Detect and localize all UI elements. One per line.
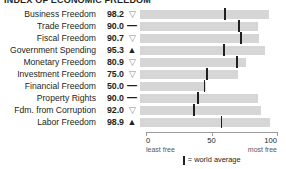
trend-down-icon: ▽ xyxy=(124,8,140,20)
chart-row: Financial Freedom50.0— xyxy=(0,80,286,92)
bar-track xyxy=(140,20,271,32)
world-average-tick xyxy=(193,104,195,116)
row-value: 98.2 xyxy=(96,8,124,20)
chart-row: Business Freedom98.2▽ xyxy=(0,8,286,20)
trend-down-icon: ▽ xyxy=(124,68,140,80)
world-average-tick xyxy=(204,80,206,92)
chart-title-text: INDEX OF ECONOMIC FREEDOM xyxy=(4,0,274,5)
row-label: Trade Freedom xyxy=(0,20,96,32)
chart-row: Fdm. from Corruption92.0▽ xyxy=(0,104,286,116)
value-bar xyxy=(140,10,269,19)
row-label: Investment Freedom xyxy=(0,68,96,80)
axis-sublabel: most free xyxy=(248,145,277,154)
row-value: 90.0 xyxy=(96,20,124,32)
chart-rows: Business Freedom98.2▽Trade Freedom90.0—F… xyxy=(0,8,286,128)
world-average-tick xyxy=(206,68,208,80)
row-value: 90.0 xyxy=(96,92,124,104)
chart-title: INDEX OF ECONOMIC FREEDOM xyxy=(4,0,274,5)
row-label: Fiscal Freedom xyxy=(0,32,96,44)
value-bar xyxy=(140,22,258,31)
value-bar xyxy=(140,82,206,91)
world-average-tick xyxy=(223,44,225,56)
chart-row: Government Spending95.3▲ xyxy=(0,44,286,56)
value-bar xyxy=(140,94,258,103)
axis-tick xyxy=(277,132,278,136)
value-bar xyxy=(140,70,238,79)
bar-track xyxy=(140,116,271,128)
legend-label: = world average xyxy=(188,155,241,165)
chart-row: Fiscal Freedom90.7▽ xyxy=(0,32,286,44)
row-value: 80.9 xyxy=(96,56,124,68)
trend-flat-icon: — xyxy=(124,92,140,104)
trend-down-icon: ▽ xyxy=(124,104,140,116)
economic-freedom-chart: INDEX OF ECONOMIC FREEDOM Business Freed… xyxy=(0,0,286,169)
world-average-marker-icon xyxy=(183,156,185,165)
trend-up-icon: ▲ xyxy=(124,44,140,56)
value-bar xyxy=(140,106,261,115)
row-label: Labor Freedom xyxy=(0,116,96,128)
x-axis-labels: 0least free50100most free xyxy=(146,136,277,146)
chart-row: Property Rights90.0— xyxy=(0,92,286,104)
legend: = world average xyxy=(183,155,241,165)
bar-track xyxy=(140,44,271,56)
row-label: Financial Freedom xyxy=(0,80,96,92)
world-average-tick xyxy=(221,116,223,128)
trend-flat-icon: — xyxy=(124,80,140,92)
row-label: Business Freedom xyxy=(0,8,96,20)
value-bar xyxy=(140,58,246,67)
bar-track xyxy=(140,104,271,116)
chart-row: Labor Freedom98.9▲ xyxy=(0,116,286,128)
row-label: Monetary Freedom xyxy=(0,56,96,68)
bar-track xyxy=(140,68,271,80)
bar-track xyxy=(140,92,271,104)
axis-tick-label: 100 xyxy=(264,136,277,145)
axis-sublabel: least free xyxy=(146,145,175,154)
world-average-tick xyxy=(224,8,226,20)
axis-tick-label: 0 xyxy=(146,136,150,145)
row-label: Property Rights xyxy=(0,92,96,104)
world-average-tick xyxy=(240,32,242,44)
chart-row: Investment Freedom75.0▽ xyxy=(0,68,286,80)
world-average-tick xyxy=(236,56,238,68)
world-average-tick xyxy=(197,92,199,104)
trend-down-icon: ▽ xyxy=(124,56,140,68)
row-label: Government Spending xyxy=(0,44,96,56)
world-average-tick xyxy=(238,20,240,32)
row-value: 50.0 xyxy=(96,80,124,92)
bar-track xyxy=(140,32,271,44)
value-bar xyxy=(140,46,265,55)
trend-flat-icon: — xyxy=(124,20,140,32)
axis-tick-label: 50 xyxy=(207,136,215,145)
chart-row: Trade Freedom90.0— xyxy=(0,20,286,32)
bar-track xyxy=(140,56,271,68)
value-bar xyxy=(140,118,270,127)
row-value: 75.0 xyxy=(96,68,124,80)
row-value: 92.0 xyxy=(96,104,124,116)
bar-track xyxy=(140,8,271,20)
row-label: Fdm. from Corruption xyxy=(0,104,96,116)
chart-row: Monetary Freedom80.9▽ xyxy=(0,56,286,68)
trend-down-icon: ▽ xyxy=(124,32,140,44)
row-value: 90.7 xyxy=(96,32,124,44)
row-value: 98.9 xyxy=(96,116,124,128)
row-value: 95.3 xyxy=(96,44,124,56)
trend-up-icon: ▲ xyxy=(124,116,140,128)
bar-track xyxy=(140,80,271,92)
